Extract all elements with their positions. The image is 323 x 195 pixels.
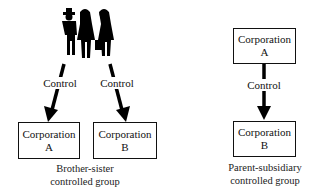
corporation-b-box-parent: Corporation B <box>233 121 296 157</box>
people-silhouette-icon <box>62 8 114 58</box>
control-label-right: Control <box>97 77 137 89</box>
corporation-a-name: Corporation <box>234 33 295 46</box>
control-label-parent: Control <box>243 79 285 91</box>
corporation-a-name: Corporation <box>19 128 79 141</box>
corporation-a-box-parent: Corporation A <box>233 28 296 64</box>
caption-line2: controlled group <box>40 175 130 188</box>
brother-sister-caption: Brother-sister controlled group <box>40 162 130 188</box>
parent-subsidiary-caption: Parent-subsidiary controlled group <box>220 161 310 187</box>
corporation-a-letter: A <box>19 141 79 154</box>
corporation-b-name: Corporation <box>234 126 295 139</box>
corporation-b-letter: B <box>234 139 295 152</box>
corporation-a-box-brother-sister: Corporation A <box>18 122 80 159</box>
corporation-b-letter: B <box>94 141 156 154</box>
caption-line1: Parent-subsidiary <box>220 161 310 174</box>
corporation-a-letter: A <box>234 46 295 59</box>
corporation-b-box-brother-sister: Corporation B <box>93 122 157 159</box>
caption-line2: controlled group <box>220 174 310 187</box>
corporation-b-name: Corporation <box>94 128 156 141</box>
caption-line1: Brother-sister <box>40 162 130 175</box>
control-label-left: Control <box>40 77 80 89</box>
